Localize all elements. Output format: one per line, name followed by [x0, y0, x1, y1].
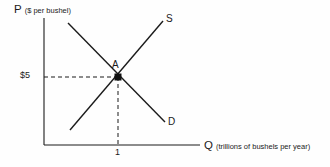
demand-curve — [68, 23, 165, 122]
equilibrium-point-marker — [115, 74, 122, 81]
x-axis-title: Q (trillions of bushels per year) — [204, 140, 310, 152]
y-axis-units: ($ per bushel) — [25, 7, 71, 15]
y-axis-symbol: P — [14, 4, 22, 16]
x-axis-units: (trillions of bushels per year) — [216, 143, 310, 151]
x-axis-tick-label-quantity: 1 — [115, 148, 120, 157]
y-axis-tick-label-price: $5 — [20, 71, 30, 80]
x-axis-symbol: Q — [204, 140, 213, 152]
demand-curve-label: D — [168, 117, 175, 127]
supply-curve-label: S — [166, 14, 173, 24]
y-axis-title: P ($ per bushel) — [14, 4, 71, 16]
supply-demand-chart: P ($ per bushel) Q (trillions of bushels… — [0, 0, 330, 167]
equilibrium-point-label: A — [112, 60, 119, 70]
